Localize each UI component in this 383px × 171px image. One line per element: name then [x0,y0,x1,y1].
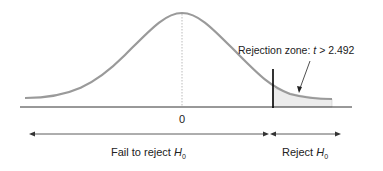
rejection-zone-label: Rejection zone: t > 2.492 [238,44,355,56]
t-distribution-chart: 0 Rejection zone: t > 2.492 Fail to reje… [0,0,383,171]
chart-canvas: 0 Rejection zone: t > 2.492 Fail to reje… [0,0,383,171]
annotation-arrowhead [297,86,302,93]
distribution-curve [25,13,332,99]
arrowhead-right [335,132,341,137]
annotation-arrow [299,61,310,91]
x-tick-zero: 0 [179,113,185,125]
reject-label: Reject H0 [282,146,328,160]
arrowhead-right [263,132,269,137]
arrowhead-left [270,132,276,137]
arrowhead-left [29,132,35,137]
fail-to-reject-label: Fail to reject H0 [111,146,186,160]
